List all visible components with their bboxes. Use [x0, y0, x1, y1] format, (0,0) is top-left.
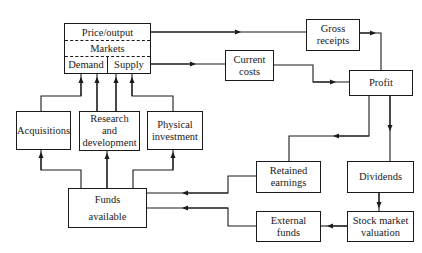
edge-acquisitions-to-demand — [41, 74, 81, 111]
markets-label: Markets — [65, 41, 150, 56]
demand-label: Demand — [65, 56, 107, 73]
edge-funds-to-acquisitions — [41, 149, 81, 188]
dividends-box: Dividends — [347, 161, 414, 193]
edge-external-to-funds — [146, 208, 256, 226]
external-funds-label: External funds — [271, 215, 307, 239]
external-funds-box: External funds — [256, 211, 321, 242]
acquisitions-label: Acquisitions — [17, 125, 70, 137]
edge-gross-to-profit — [359, 33, 381, 70]
edge-physical-to-supply — [132, 74, 173, 111]
profit-label: Profit — [369, 77, 393, 89]
physical-investment-label: Physical investment — [152, 119, 198, 143]
funds-available-label: Funds available — [89, 191, 127, 225]
edge-retained-to-funds — [146, 176, 256, 193]
funds-available-box: Funds available — [68, 188, 147, 228]
research-development-label: Research and development — [82, 113, 136, 149]
edge-profit-to-retained — [289, 95, 369, 161]
current-costs-label: Current costs — [233, 54, 265, 78]
acquisitions-box: Acquisitions — [16, 111, 71, 150]
supply-label: Supply — [108, 56, 150, 73]
stock-market-valuation-box: Stock market valuation — [347, 211, 414, 242]
retained-earnings-label: Retained earnings — [270, 165, 307, 189]
gross-receipts-label: Gross receipts — [317, 23, 350, 47]
price-output-label: Price/output — [65, 25, 150, 40]
edge-funds-to-physical — [133, 149, 173, 188]
physical-investment-box: Physical investment — [147, 111, 203, 150]
profit-box: Profit — [349, 70, 413, 96]
markets-box: Price/output Markets Demand Supply — [64, 23, 151, 74]
research-development-box: Research and development — [79, 111, 140, 151]
stock-market-valuation-label: Stock market valuation — [353, 215, 409, 239]
retained-earnings-box: Retained earnings — [256, 161, 321, 193]
gross-receipts-box: Gross receipts — [306, 19, 360, 51]
dividends-label: Dividends — [359, 171, 402, 183]
current-costs-box: Current costs — [225, 50, 274, 81]
edge-costs-to-profit — [273, 65, 349, 82]
